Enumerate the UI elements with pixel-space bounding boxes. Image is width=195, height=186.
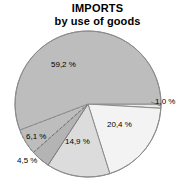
slice-value-label: 6,1 % [26,132,46,141]
slice-value-label: 59,2 % [51,60,76,69]
slice-value-label: 14,9 % [65,137,90,146]
pie-chart-figure: IMPORTS by use of goods 1,0 %20,4 %14,9 … [0,0,195,186]
slice-value-label: 1,0 % [155,97,175,106]
slice-value-label: 20,4 % [107,120,132,129]
slice-value-label: 4,5 % [17,156,37,165]
